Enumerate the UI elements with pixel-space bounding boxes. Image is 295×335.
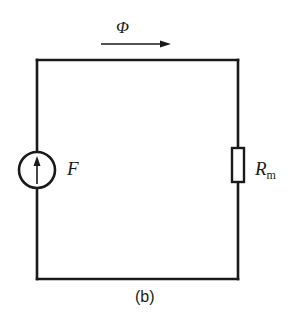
flux-arrow-icon [101,41,171,48]
figure-caption: (b) [135,289,155,305]
resistor-label: Rm [255,159,276,178]
resistor-subscript: m [267,168,276,182]
flux-label: Φ [116,19,129,36]
circuit-diagram [0,0,295,335]
reluctance-resistor-icon [232,148,244,182]
resistor-symbol: R [255,158,267,179]
mmf-source-icon [19,152,55,188]
source-label: F [67,159,79,178]
